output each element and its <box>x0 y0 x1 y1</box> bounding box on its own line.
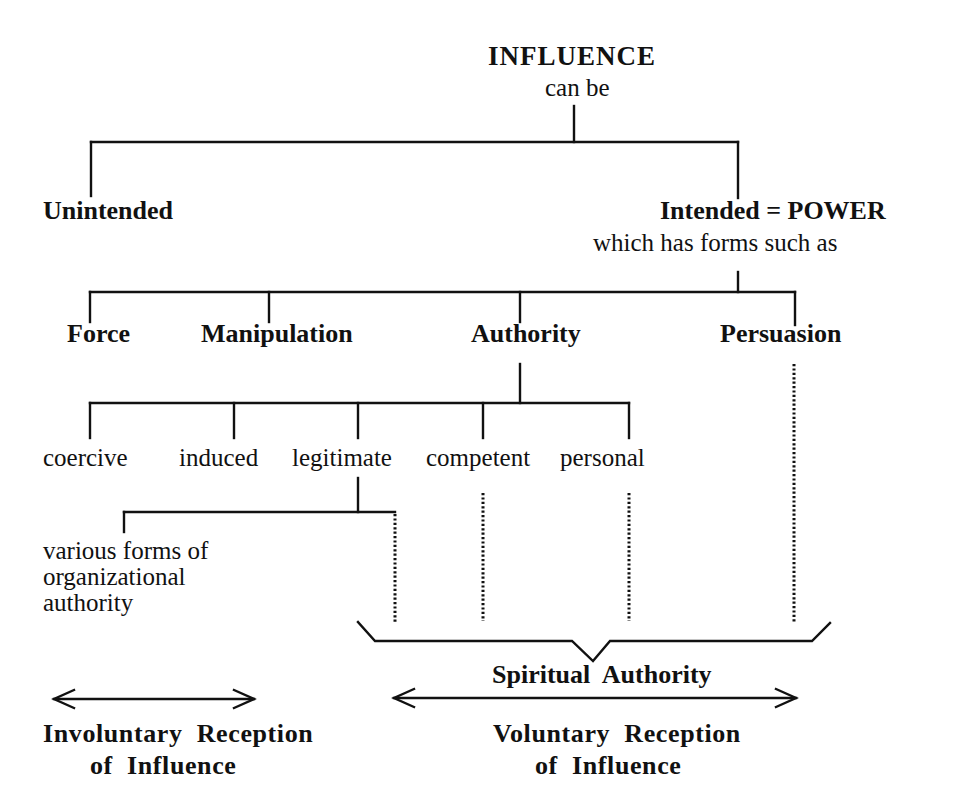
unintended-node: Unintended <box>43 198 173 224</box>
organizational-authority-line3: authority <box>43 590 133 615</box>
connector-lines <box>0 0 969 808</box>
root-title: INFLUENCE <box>488 43 656 70</box>
intended-subtitle: which has forms such as <box>593 230 837 255</box>
organizational-authority-line1: various forms of <box>43 538 208 563</box>
authority-type-personal: personal <box>560 445 645 470</box>
authority-type-coercive: coercive <box>43 445 128 470</box>
intended-power-node: Intended = POWER <box>660 198 886 224</box>
form-manipulation: Manipulation <box>201 321 353 347</box>
influence-diagram: INFLUENCE can be Unintended Intended = P… <box>0 0 969 808</box>
authority-type-induced: induced <box>179 445 258 470</box>
voluntary-reception-line1: Voluntary Reception <box>493 721 741 747</box>
spiritual-bracket <box>358 622 830 661</box>
involuntary-reception-line1: Involuntary Reception <box>43 721 313 747</box>
spiritual-authority-label: Spiritual Authority <box>492 662 712 688</box>
involuntary-reception-line2: of Influence <box>90 753 236 779</box>
authority-type-competent: competent <box>426 445 530 470</box>
authority-type-legitimate: legitimate <box>292 445 392 470</box>
voluntary-reception-line2: of Influence <box>535 753 681 779</box>
form-persuasion: Persuasion <box>720 321 841 347</box>
form-force: Force <box>67 321 130 347</box>
form-authority: Authority <box>471 321 581 347</box>
organizational-authority-line2: organizational <box>43 564 186 589</box>
root-subtitle: can be <box>545 75 610 100</box>
